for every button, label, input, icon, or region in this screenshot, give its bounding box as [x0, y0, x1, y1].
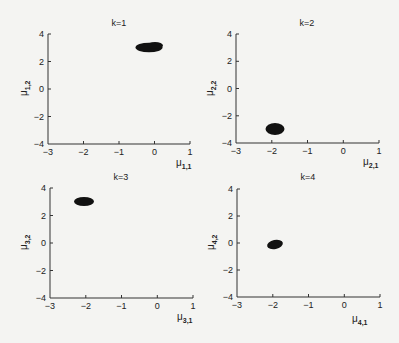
svg-text:0: 0: [41, 238, 46, 248]
svg-text:2: 2: [39, 57, 44, 67]
y-axis-label: μ2,2: [204, 80, 218, 96]
svg-text:2: 2: [227, 56, 232, 66]
svg-text:0: 0: [227, 84, 232, 94]
panel-k1: k=1 4 2 0 −2 −4 −3 −2 −1 0 1 μ1,1 μ1,2: [18, 18, 193, 171]
svg-text:−3: −3: [232, 300, 242, 310]
svg-text:−1: −1: [114, 147, 124, 157]
panel-k4: k=4 4 2 0 −2 −4 −3 −2 −1 0 1 μ4,1 μ4,2: [205, 172, 383, 327]
panel-title: k=4: [301, 172, 316, 182]
svg-text:2: 2: [41, 211, 46, 221]
svg-text:1: 1: [376, 146, 381, 156]
svg-text:−2: −2: [267, 146, 277, 156]
svg-text:−2: −2: [36, 266, 46, 276]
x-ticks: −3 −2 −1 0 1: [45, 295, 196, 311]
x-axis-label: μ4,1: [352, 313, 368, 327]
svg-text:−2: −2: [81, 301, 91, 311]
figure-canvas: k=1 4 2 0 −2 −4 −3 −2 −1 0 1 μ1,1 μ1,2 k: [0, 0, 399, 343]
svg-text:2: 2: [228, 211, 233, 221]
x-axis-label: μ1,1: [176, 157, 192, 171]
svg-text:0: 0: [39, 84, 44, 94]
svg-text:1: 1: [377, 300, 382, 310]
x-ticks: −3 −2 −1 0 1: [232, 294, 383, 310]
x-axis-label: μ2,1: [363, 156, 379, 170]
svg-text:−3: −3: [231, 146, 241, 156]
svg-text:−1: −1: [302, 146, 312, 156]
svg-text:−2: −2: [78, 147, 88, 157]
svg-text:−3: −3: [45, 301, 55, 311]
panel-title: k=2: [300, 18, 315, 28]
svg-text:−2: −2: [223, 265, 233, 275]
sample-cluster: [74, 197, 94, 206]
svg-text:0: 0: [342, 300, 347, 310]
svg-text:0: 0: [155, 301, 160, 311]
svg-text:−1: −1: [303, 300, 313, 310]
panel-title: k=1: [112, 18, 127, 28]
svg-text:0: 0: [341, 146, 346, 156]
svg-text:−3: −3: [43, 147, 53, 157]
x-ticks: −3 −2 −1 0 1: [43, 141, 193, 157]
svg-text:−2: −2: [268, 300, 278, 310]
y-axis-label: μ1,2: [18, 80, 32, 96]
svg-text:0: 0: [228, 238, 233, 248]
sample-cluster: [266, 238, 284, 250]
svg-text:−2: −2: [222, 111, 232, 121]
x-ticks: −3 −2 −1 0 1: [231, 140, 382, 156]
y-axis-label: μ3,2: [18, 234, 32, 250]
svg-text:4: 4: [227, 29, 232, 39]
svg-text:−2: −2: [34, 112, 44, 122]
svg-text:1: 1: [187, 147, 192, 157]
panel-k3: k=3 4 2 0 −2 −4 −3 −2 −1 0 1 μ3,1 μ3,2: [18, 172, 196, 325]
sample-cluster: [266, 123, 285, 135]
x-axis-label: μ3,1: [177, 311, 193, 325]
svg-text:4: 4: [39, 29, 44, 39]
panel-k2: k=2 4 2 0 −2 −4 −3 −2 −1 0 1 μ2,1 μ2,2: [204, 18, 382, 170]
svg-text:1: 1: [190, 301, 195, 311]
svg-text:4: 4: [228, 184, 233, 194]
svg-text:4: 4: [41, 183, 46, 193]
y-axis-label: μ4,2: [205, 234, 219, 250]
panel-title: k=3: [114, 172, 129, 182]
svg-text:0: 0: [152, 147, 157, 157]
svg-text:−1: −1: [116, 301, 126, 311]
